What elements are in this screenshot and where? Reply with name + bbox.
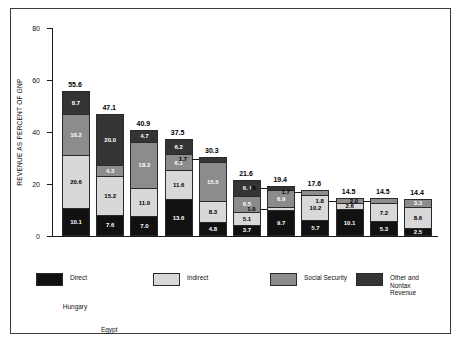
bar-segment[interactable] bbox=[200, 158, 226, 162]
bar-stack[interactable]: 4.88.315.5 bbox=[199, 157, 227, 236]
bar-segment[interactable]: 5.3 bbox=[371, 222, 397, 235]
bar-segment[interactable]: 7.2 bbox=[371, 204, 397, 222]
segment-value-label: 10.2 bbox=[302, 205, 328, 211]
segment-value-label: 6.2 bbox=[166, 144, 192, 150]
legend-label: Other and Nontax Revenue bbox=[390, 273, 436, 297]
segment-value-label: 2.6 bbox=[337, 203, 363, 209]
bar-group[interactable]: 40.97.011.018.24.7France bbox=[130, 130, 156, 236]
legend-item[interactable]: Indirect bbox=[153, 273, 208, 286]
bar-group[interactable]: 14.42.58.63.3India bbox=[404, 199, 430, 236]
bar-segment[interactable]: 20.6 bbox=[63, 156, 89, 209]
bar-segment[interactable]: 5.7 bbox=[302, 221, 328, 235]
y-axis-tick-label: 20 bbox=[32, 181, 40, 188]
bar-segment[interactable]: 4.7 bbox=[131, 131, 157, 143]
callout-leader-line bbox=[260, 209, 267, 210]
bar-segment[interactable]: 7.0 bbox=[131, 217, 157, 235]
bar-segment[interactable]: 6.2 bbox=[166, 140, 192, 156]
legend-label: Social Security bbox=[304, 273, 347, 282]
bar-group[interactable]: 47.17.615.24.320.0Egypt bbox=[96, 114, 122, 236]
segment-value-label: 10.1 bbox=[337, 220, 363, 226]
bar-segment[interactable]: 20.0 bbox=[97, 115, 123, 166]
bar-stack[interactable]: 10.12.6 bbox=[336, 198, 364, 236]
segment-value-label: 7.2 bbox=[371, 210, 397, 216]
bar-segment[interactable]: 11.6 bbox=[166, 171, 192, 201]
bar-total-label: 21.6 bbox=[227, 170, 265, 177]
segment-value-label: 7.6 bbox=[97, 222, 123, 228]
segment-value-label: 11.0 bbox=[131, 200, 157, 206]
bar-total-label: 17.6 bbox=[295, 180, 333, 187]
segment-value-label: 9.7 bbox=[268, 220, 294, 226]
bar-total-label: 40.9 bbox=[124, 120, 162, 127]
bar-segment[interactable] bbox=[268, 208, 294, 211]
bar-segment[interactable]: 18.2 bbox=[131, 143, 157, 189]
bar-segment[interactable] bbox=[302, 191, 328, 195]
y-axis-tick-label: 60 bbox=[32, 77, 40, 84]
bar-segment[interactable]: 3.3 bbox=[405, 200, 431, 208]
segment-value-label: 6.9 bbox=[268, 196, 294, 202]
bar-total-label: 14.5 bbox=[364, 188, 402, 195]
legend-swatch bbox=[356, 273, 383, 286]
legend-label: Direct bbox=[70, 273, 87, 282]
segment-value-label: 15.2 bbox=[97, 193, 123, 199]
bar-total-label: 14.4 bbox=[398, 189, 436, 196]
segment-callout-label: 1.7 bbox=[281, 189, 289, 195]
legend-item[interactable]: Direct bbox=[36, 273, 87, 286]
bar-segment[interactable]: 4.3 bbox=[97, 166, 123, 177]
bar-group[interactable]: 55.610.120.616.28.7Hungary bbox=[62, 91, 88, 236]
bar-segment[interactable]: 11.0 bbox=[131, 189, 157, 217]
bar-segment[interactable]: 8.7 bbox=[63, 92, 89, 114]
segment-callout-label: 1.0 bbox=[247, 206, 255, 212]
segment-value-label: 2.5 bbox=[405, 229, 431, 235]
bar-segment[interactable]: 2.5 bbox=[405, 229, 431, 235]
legend-item[interactable]: Social Security bbox=[270, 273, 347, 286]
segment-value-label: 18.2 bbox=[131, 162, 157, 168]
bar-segment[interactable]: 15.2 bbox=[97, 177, 123, 216]
bar-total-label: 55.6 bbox=[56, 81, 94, 88]
bar-stack[interactable]: 7.011.018.24.7 bbox=[130, 130, 158, 236]
bar-series-container: 55.610.120.616.28.7Hungary47.17.615.24.3… bbox=[52, 28, 438, 236]
segment-callout-label: 1.7 bbox=[179, 156, 187, 162]
segment-callout-label: 2.0 bbox=[350, 198, 358, 204]
bar-segment[interactable]: 10.1 bbox=[63, 209, 89, 235]
bar-stack[interactable]: 10.120.616.28.7 bbox=[62, 91, 90, 236]
legend-swatch bbox=[270, 273, 297, 286]
bar-stack[interactable]: 2.58.63.3 bbox=[404, 199, 432, 236]
bar-segment[interactable]: 9.7 bbox=[268, 211, 294, 235]
y-axis-tick-label: 0 bbox=[36, 233, 40, 240]
bar-stack[interactable]: 13.611.66.16.2 bbox=[165, 139, 193, 237]
bar-total-label: 30.3 bbox=[193, 147, 231, 154]
bar-stack[interactable]: 7.615.24.320.0 bbox=[96, 114, 124, 236]
y-axis-tick-label: 80 bbox=[32, 25, 40, 32]
chart-legend: DirectIndirectSocial SecurityOther and N… bbox=[36, 273, 436, 299]
bar-segment[interactable]: 5.1 bbox=[234, 213, 260, 226]
y-axis-title: REVENUE AS PERCENT OF GNP bbox=[14, 28, 26, 236]
bar-segment[interactable]: 13.6 bbox=[166, 200, 192, 235]
bar-segment[interactable]: 2.6 bbox=[337, 204, 363, 210]
bar-segment[interactable]: 8.6 bbox=[405, 208, 431, 229]
legend-label: Indirect bbox=[187, 273, 208, 282]
bar-group[interactable]: 14.510.12.6Japan bbox=[336, 198, 362, 236]
bar-segment[interactable]: 8.3 bbox=[200, 202, 226, 223]
bar-group[interactable]: 14.55.37.2Mexico bbox=[370, 198, 396, 236]
bar-stack[interactable]: 5.37.2 bbox=[370, 198, 398, 236]
bar-segment[interactable]: 7.6 bbox=[97, 216, 123, 235]
y-axis-tick: 0 bbox=[47, 236, 52, 237]
legend-item[interactable]: Other and Nontax Revenue bbox=[356, 273, 436, 297]
bar-group[interactable]: 30.34.88.315.5West Germany bbox=[199, 157, 225, 236]
bar-segment[interactable] bbox=[371, 199, 397, 204]
segment-value-label: 5.1 bbox=[234, 216, 260, 222]
segment-value-label: 10.1 bbox=[63, 219, 89, 225]
legend-swatch bbox=[153, 273, 180, 286]
bar-segment[interactable]: 4.8 bbox=[200, 223, 226, 235]
bar-segment[interactable]: 10.1 bbox=[337, 210, 363, 235]
segment-callout-label: 1.8 bbox=[247, 185, 255, 191]
plot-area: 020406080 55.610.120.616.28.7Hungary47.1… bbox=[52, 28, 438, 236]
segment-value-label: 8.7 bbox=[63, 100, 89, 106]
callout-leader-line bbox=[294, 192, 301, 193]
bar-segment[interactable]: 3.7 bbox=[234, 226, 260, 235]
segment-callout-label: 1.8 bbox=[316, 198, 324, 204]
bar-group[interactable]: 37.513.611.66.16.2United Kingdom bbox=[165, 139, 191, 237]
callout-leader-line bbox=[260, 188, 267, 189]
bar-segment[interactable]: 16.2 bbox=[63, 115, 89, 157]
bar-segment[interactable]: 15.5 bbox=[200, 163, 226, 202]
